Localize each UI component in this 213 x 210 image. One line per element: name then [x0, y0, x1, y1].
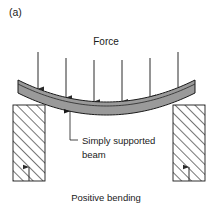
panel-label: (a)	[9, 6, 22, 18]
figure-container: (a) Force Simply supported beam Positive…	[0, 0, 213, 210]
callout-label-line1: Simply supported	[82, 135, 155, 146]
figure-caption: Positive bending	[71, 192, 141, 203]
force-label: Force	[93, 36, 119, 47]
bending-diagram: (a) Force Simply supported beam Positive…	[0, 0, 213, 210]
callout-label-line2: beam	[82, 149, 106, 160]
